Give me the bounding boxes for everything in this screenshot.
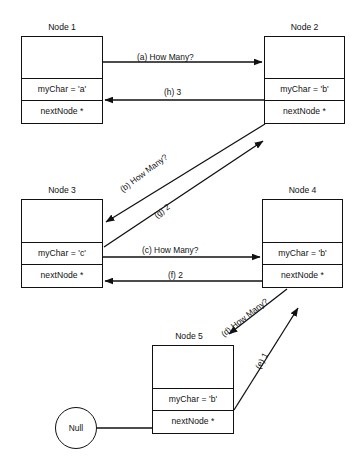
edge-label-h: (h) 3 [164, 87, 181, 97]
node-title-node1: Node 1 [21, 22, 103, 32]
node-title-node3: Node 3 [21, 185, 103, 195]
node4-object-area [263, 200, 342, 243]
node-box-node2: myChar = 'b' nextNode * [264, 36, 345, 124]
node1-nextnode-field: nextNode * [22, 101, 102, 123]
node-box-node5: myChar = 'b' nextNode * [152, 345, 234, 434]
node4-mychar-field: myChar = 'b' [263, 243, 342, 265]
node1-object-area [22, 37, 102, 79]
null-terminator: Null [55, 407, 97, 449]
node-title-node2: Node 2 [264, 22, 345, 32]
node5-mychar-field: myChar = 'b' [153, 389, 233, 411]
node5-object-area [153, 346, 233, 389]
diagram-canvas: Node 1 Node 2 Node 3 Node 4 Node 5 myCha… [0, 0, 363, 474]
node4-nextnode-field: nextNode * [263, 265, 342, 287]
edge-label-a: (a) How Many? [137, 52, 194, 62]
node-box-node1: myChar = 'a' nextNode * [21, 36, 103, 124]
node3-nextnode-field: nextNode * [22, 265, 102, 287]
node5-nextnode-field: nextNode * [153, 411, 233, 433]
node2-mychar-field: myChar = 'b' [265, 79, 344, 101]
edge-label-c: (c) How Many? [142, 245, 198, 255]
node-title-node5: Node 5 [148, 331, 230, 341]
arrow-g-return [104, 141, 263, 247]
node-title-node4: Node 4 [262, 185, 343, 195]
node2-object-area [265, 37, 344, 79]
node2-nextnode-field: nextNode * [265, 101, 344, 123]
node3-object-area [22, 200, 102, 243]
node3-mychar-field: myChar = 'c' [22, 243, 102, 265]
node-box-node3: myChar = 'c' nextNode * [21, 199, 103, 288]
edge-label-f: (f) 2 [168, 270, 183, 280]
node-box-node4: myChar = 'b' nextNode * [262, 199, 343, 288]
node1-mychar-field: myChar = 'a' [22, 79, 102, 101]
arrow-b-call [106, 124, 265, 222]
